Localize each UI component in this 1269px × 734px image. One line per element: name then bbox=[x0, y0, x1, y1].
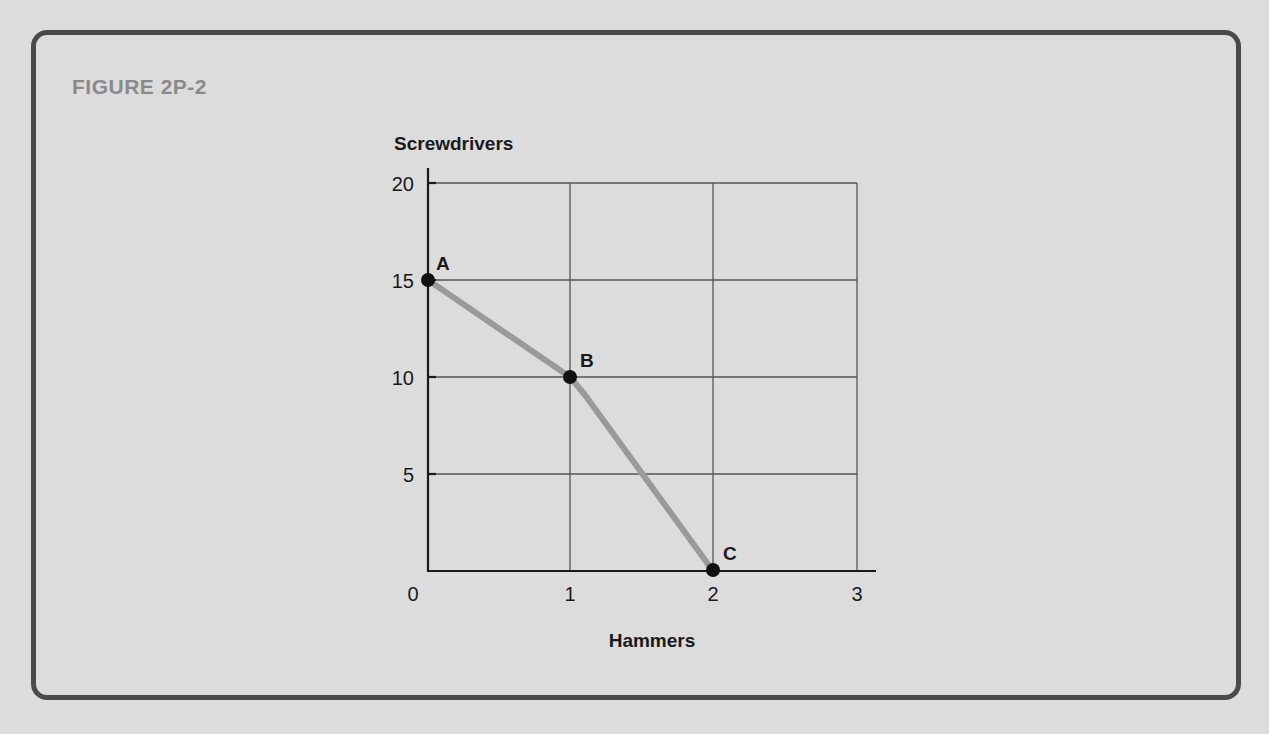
x-tick-3: 3 bbox=[851, 583, 862, 605]
point-b-label: B bbox=[580, 350, 594, 371]
grid bbox=[428, 183, 857, 571]
y-tick-10: 10 bbox=[392, 367, 414, 389]
point-b bbox=[563, 370, 577, 384]
y-tick-5: 5 bbox=[403, 464, 414, 486]
point-a bbox=[421, 273, 435, 287]
y-tick-15: 15 bbox=[392, 270, 414, 292]
x-tick-2: 2 bbox=[707, 583, 718, 605]
chart: 20 15 10 5 0 1 2 3 Screwdrivers Hammers … bbox=[0, 0, 1269, 734]
x-axis-title: Hammers bbox=[609, 630, 696, 651]
x-tick-0: 0 bbox=[407, 583, 418, 605]
x-tick-1: 1 bbox=[564, 583, 575, 605]
point-c bbox=[706, 563, 720, 577]
point-a-label: A bbox=[436, 253, 450, 274]
axes bbox=[427, 168, 876, 572]
y-axis-title: Screwdrivers bbox=[394, 133, 513, 154]
y-tick-20: 20 bbox=[392, 173, 414, 195]
point-c-label: C bbox=[723, 543, 737, 564]
